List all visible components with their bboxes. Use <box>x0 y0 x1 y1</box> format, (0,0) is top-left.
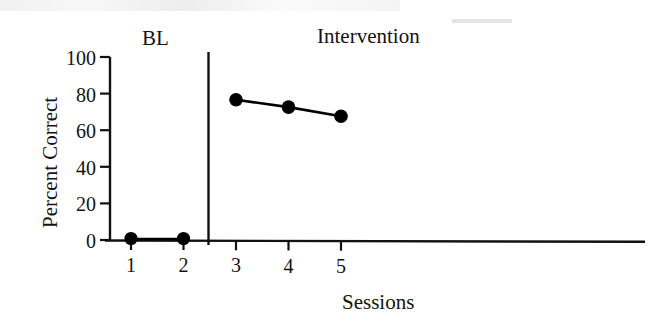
plot-canvas <box>0 0 670 328</box>
y-tick-label-0: 0 <box>52 231 96 251</box>
data-point-session-3 <box>229 93 243 107</box>
phase-label-baseline: BL <box>142 28 169 49</box>
x-tick-label-5: 5 <box>321 256 361 276</box>
data-point-session-5 <box>334 109 348 123</box>
y-axis-title: Percent Correct <box>40 97 61 228</box>
x-tick-label-3: 3 <box>216 255 256 275</box>
phase-label-intervention: Intervention <box>317 26 420 47</box>
data-point-session-4 <box>282 100 296 114</box>
figure-single-case-graph: 100 80 60 40 20 0 1 2 3 4 5 BL Intervent… <box>0 0 670 328</box>
x-tick-label-2: 2 <box>164 255 204 275</box>
x-tick-label-4: 4 <box>269 256 309 276</box>
y-axis-ticks <box>100 57 110 240</box>
x-axis-title: Sessions <box>342 292 414 313</box>
x-tick-label-1: 1 <box>111 255 151 275</box>
data-point-session-1 <box>124 232 137 245</box>
data-point-session-2 <box>177 232 190 245</box>
y-tick-label-100: 100 <box>52 48 96 68</box>
